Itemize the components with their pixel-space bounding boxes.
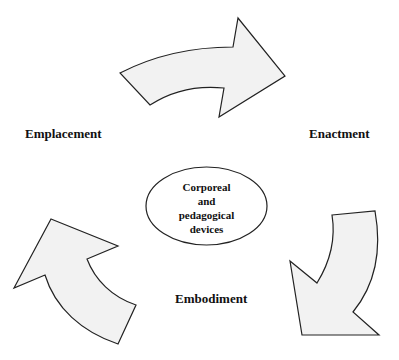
arrow-embodiment-to-emplacement xyxy=(14,219,136,344)
center-line-4: devices xyxy=(146,222,267,236)
arrow-emplacement-to-enactment xyxy=(120,18,285,117)
center-concept: Corporeal and pedagogical devices xyxy=(146,180,267,236)
center-line-1: Corporeal xyxy=(146,180,267,194)
cycle-diagram: Emplacement Enactment Embodiment Corpore… xyxy=(0,0,399,360)
stage-label-embodiment: Embodiment xyxy=(175,292,247,305)
center-line-3: pedagogical xyxy=(146,208,267,222)
stage-label-emplacement: Emplacement xyxy=(25,127,102,140)
stage-label-enactment: Enactment xyxy=(309,127,370,140)
center-line-2: and xyxy=(146,194,267,208)
arrow-enactment-to-embodiment xyxy=(290,211,379,335)
